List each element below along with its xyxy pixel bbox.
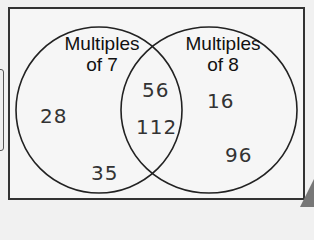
value-112: 112 bbox=[136, 115, 177, 139]
value-28: 28 bbox=[40, 104, 67, 128]
value-16: 16 bbox=[207, 89, 234, 113]
set-b-label: Multiples of 8 bbox=[173, 33, 273, 75]
set-b-label-line1: Multiples bbox=[173, 33, 273, 54]
page-corner bbox=[300, 179, 314, 207]
value-96: 96 bbox=[225, 143, 252, 167]
set-a-label: Multiples of 7 bbox=[52, 33, 152, 75]
set-a-label-line2: of 7 bbox=[52, 54, 152, 75]
set-b-label-line2: of 8 bbox=[173, 54, 273, 75]
value-35: 35 bbox=[91, 161, 118, 185]
set-a-label-line1: Multiples bbox=[52, 33, 152, 54]
value-56: 56 bbox=[142, 78, 169, 102]
